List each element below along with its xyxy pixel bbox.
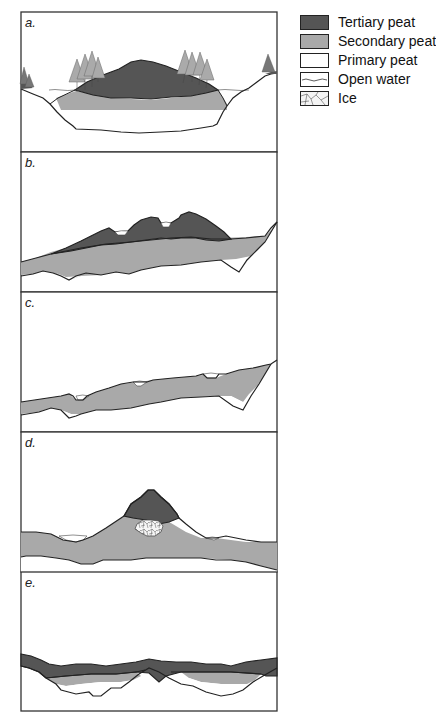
legend-label: Tertiary peat — [338, 13, 415, 32]
wave-icon — [301, 73, 328, 86]
panel-d: d. — [21, 432, 277, 572]
dark-fill-swatch-icon — [300, 15, 329, 30]
panel-c: c. — [21, 292, 277, 432]
legend-label: Ice — [338, 89, 357, 108]
panel-b: b. — [21, 152, 277, 292]
ice-crack-icon — [301, 92, 328, 105]
panel-b-label: b. — [25, 155, 36, 170]
wavy-line-swatch-icon — [300, 72, 329, 87]
legend-item-secondary-peat: Secondary peat — [300, 32, 436, 51]
legend-item-ice: Ice — [300, 89, 436, 108]
panel-a-label: a. — [25, 15, 36, 30]
panel-b-open-water-2 — [161, 222, 171, 227]
legend-label: Open water — [338, 70, 410, 89]
grey-fill-swatch-icon — [300, 34, 329, 49]
legend: Tertiary peat Secondary peat Primary pea… — [300, 13, 436, 108]
legend-item-open-water: Open water — [300, 70, 436, 89]
panel-e-label: e. — [25, 575, 36, 590]
white-fill-swatch-icon — [300, 53, 329, 68]
panel-a: a. — [20, 12, 277, 152]
crackle-pattern-swatch-icon — [300, 91, 329, 106]
panel-d-label: d. — [25, 435, 36, 450]
panel-c-label: c. — [25, 295, 35, 310]
legend-label: Primary peat — [338, 51, 417, 70]
legend-item-primary-peat: Primary peat — [300, 51, 436, 70]
panel-e-frame — [21, 572, 277, 711]
panel-e: e. — [21, 572, 277, 711]
legend-label: Secondary peat — [338, 32, 436, 51]
panel-c-frame — [21, 292, 277, 432]
legend-item-tertiary-peat: Tertiary peat — [300, 13, 436, 32]
